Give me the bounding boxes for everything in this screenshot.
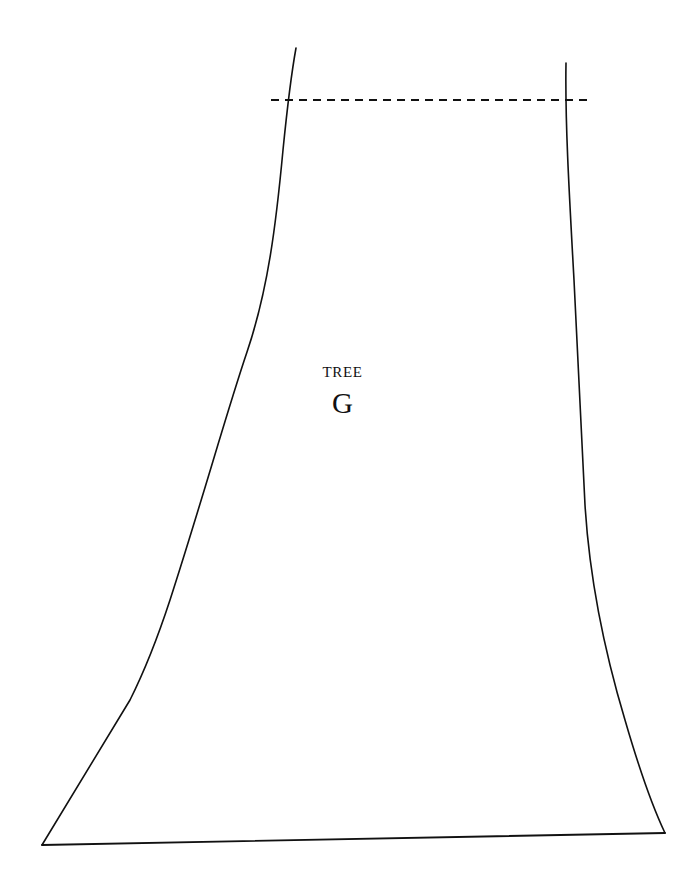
pattern-sheet: TREE G (0, 0, 685, 892)
pattern-drawing (0, 0, 685, 892)
pattern-piece-label: TREE (0, 363, 685, 381)
pattern-piece-letter: G (0, 386, 685, 420)
